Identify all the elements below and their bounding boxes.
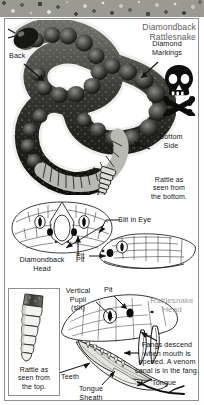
arrow-diamond-markings (137, 60, 161, 82)
note-fangs: Fangs descend when mouth is opened. A ve… (134, 341, 200, 375)
skull-and-crossbones-icon (160, 64, 198, 116)
caption-rattle-bottom: Rattle as seen from the bottom. (141, 176, 197, 201)
label-diamondback-head: Diamondback Head (10, 256, 74, 273)
label-rattlesnake-head: Rattlesnake Head (145, 296, 199, 315)
label-back: Back (9, 52, 39, 61)
arrow-bottom-side (130, 139, 152, 153)
arrow-tongue-sheath (98, 368, 120, 388)
rattle-top-view-drawing (9, 291, 59, 365)
label-tongue: Tongue (152, 379, 184, 388)
arrow-pit-side (88, 250, 112, 262)
arrow-back (22, 62, 52, 87)
arrow-tongue (134, 376, 154, 390)
arrow-fangs-upper (135, 330, 159, 344)
arrow-pit-mouth (112, 294, 132, 314)
label-vertical-pupil: Vertical Pupil (slit) (56, 287, 100, 313)
diagram-page: Diamondback Rattlesnake Back Diamond Mar… (0, 0, 204, 405)
label-diamond-markings: Diamond Markings (139, 40, 195, 57)
top-texture-band (0, 0, 204, 17)
label-bottom-side: Bottom Side (149, 133, 193, 150)
arrow-teeth (57, 360, 93, 376)
caption-rattle-top: Rattle as seen from the top. (9, 366, 59, 391)
arrow-fangs-lower (120, 348, 140, 358)
label-slit-in-eye: Slit in Eye (118, 216, 168, 225)
